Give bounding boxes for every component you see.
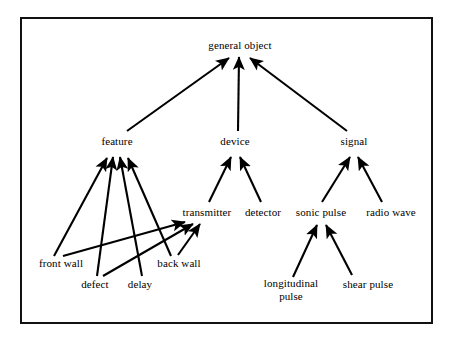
node-feature: feature [101, 135, 132, 147]
edge-feature-to-general-object [127, 58, 229, 131]
edge-transmitter-to-device [209, 157, 231, 202]
edge-longitudinal-pulse-to-sonic-pulse [293, 225, 317, 277]
node-longitudinal-pulse: longitudinal pulse [258, 277, 324, 303]
node-delay: delay [128, 278, 152, 290]
node-radio-wave: radio wave [366, 206, 416, 218]
node-back-wall: back wall [157, 257, 200, 269]
edge-shear-pulse-to-sonic-pulse [326, 225, 352, 275]
edge-detector-to-device [240, 157, 261, 202]
node-front-wall: front wall [39, 257, 83, 269]
node-signal: signal [341, 135, 368, 147]
diagram-edges [0, 0, 454, 344]
node-shear-pulse: shear pulse [343, 278, 393, 290]
edge-back-wall-to-transmitter [178, 224, 200, 255]
node-detector: detector [245, 206, 281, 218]
edge-delay-to-feature [120, 157, 142, 276]
node-device: device [220, 135, 249, 147]
node-general-object: general object [208, 39, 271, 51]
edge-sonic-pulse-to-signal [322, 157, 350, 202]
edge-device-to-general-object [238, 57, 239, 131]
node-defect: defect [81, 278, 108, 290]
edge-defect-to-feature [97, 157, 113, 276]
edge-front-wall-to-feature [54, 158, 107, 256]
node-sonic-pulse: sonic pulse [296, 206, 346, 218]
node-transmitter: transmitter [183, 206, 232, 218]
edge-signal-to-general-object [250, 58, 347, 131]
diagram-figure: general object feature device signal tra… [0, 0, 454, 344]
edge-radio-wave-to-signal [358, 157, 382, 202]
